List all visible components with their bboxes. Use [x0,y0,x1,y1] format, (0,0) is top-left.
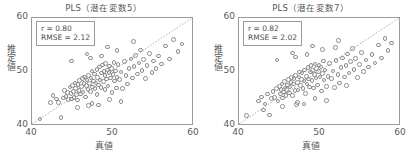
scatter-point [329,76,334,81]
scatter-point [107,97,112,102]
x-tick-label-60-right: 60 [388,127,412,137]
scatter-point [340,56,345,61]
figure-container: PLS（潜在変数5） 60 50 40 40 50 60 推定値 真値 r = … [0,0,415,155]
correlation-value-left: r = 0.80 [41,24,90,33]
scatter-point [355,75,360,80]
scatter-point [337,81,342,86]
scatter-point [295,100,300,105]
x-tick-label-40-left: 40 [19,127,43,137]
scatter-point [117,77,122,82]
scatter-point [332,85,337,90]
scatter-point [361,69,366,74]
scatter-point [342,75,347,80]
scatter-point [324,98,329,103]
scatter-point [75,105,80,110]
scatter-point [383,36,388,41]
scatter-point [159,62,164,67]
scatter-point [244,113,249,118]
stats-box-left: r = 0.80 RMSE = 2.12 [36,21,95,46]
scatter-point [379,56,384,61]
chart-panel-left: PLS（潜在変数5） 60 50 40 40 50 60 推定値 真値 r = … [0,0,207,155]
y-tick-label-60-left: 60 [6,11,28,21]
scatter-point [95,92,100,97]
stats-box-right: r = 0.82 RMSE = 2.02 [243,21,302,46]
scatter-point [280,104,285,109]
rmse-value-left: RMSE = 2.12 [41,33,90,42]
scatter-point [156,54,161,59]
scatter-point [333,45,338,50]
scatter-point [352,67,357,72]
scatter-point [59,115,64,120]
scatter-point [88,56,93,61]
x-tick-label-50-right: 50 [307,127,331,137]
scatter-point [344,63,349,68]
scatter-point [259,95,264,100]
scatter-point [131,39,136,44]
x-axis-label-right: 真値 [207,139,414,152]
scatter-point [336,72,341,77]
correlation-value-right: r = 0.82 [248,24,297,33]
scatter-point [138,48,143,53]
scatter-point [83,95,88,100]
scatter-point [386,48,391,53]
scatter-point [113,69,118,74]
scatter-point [90,101,95,106]
scatter-point [114,86,119,91]
rmse-value-right: RMSE = 2.02 [248,33,297,42]
scatter-point [327,61,332,66]
chart-title-left: PLS（潜在変数5） [0,1,207,13]
x-axis-label-left: 真値 [0,139,207,152]
scatter-point [115,48,120,53]
scatter-point [96,103,101,108]
x-tick-label-50-left: 50 [100,127,124,137]
scatter-point [171,37,176,42]
scatter-point [176,49,181,54]
scatter-point [105,45,110,50]
scatter-point [359,50,364,55]
scatter-point [315,83,320,88]
scatter-point [321,59,326,64]
chart-title-right: PLS（潜在変数7） [207,1,414,13]
scatter-point [75,98,80,103]
scatter-point [116,62,121,67]
scatter-point [293,55,298,60]
scatter-point [150,70,155,75]
scatter-point [145,63,150,68]
x-tick-label-60-left: 60 [181,127,205,137]
scatter-point [261,108,266,113]
scatter-point [324,84,329,89]
scatter-point [336,38,341,43]
scatter-point [130,76,135,81]
scatter-point [344,83,349,88]
scatter-point [120,86,125,91]
scatter-point [154,66,159,71]
y-axis-label-right: 推定値 [209,44,222,71]
scatter-point [290,93,295,98]
scatter-point [389,41,394,46]
scatter-point [133,53,138,58]
scatter-point [48,100,53,105]
y-axis-label-left: 推定値 [2,44,15,71]
scatter-point [319,89,324,94]
scatter-point [135,72,140,77]
scatter-point [88,89,93,94]
scatter-point [303,91,308,96]
chart-panel-right: PLS（潜在変数7） 60 50 40 40 50 60 推定値 真値 r = … [207,0,414,155]
scatter-point [376,43,381,48]
scatter-point [147,51,152,56]
x-tick-label-40-right: 40 [226,127,250,137]
scatter-point [122,59,127,64]
scatter-point [350,46,355,51]
scatter-point [99,54,104,59]
scatter-point [357,62,362,67]
scatter-point [141,57,146,62]
y-tick-label-60-right: 60 [213,11,235,21]
scatter-point [125,82,130,87]
scatter-point [353,56,358,61]
scatter-point [143,76,148,81]
scatter-point [370,52,375,57]
scatter-point [320,47,325,52]
